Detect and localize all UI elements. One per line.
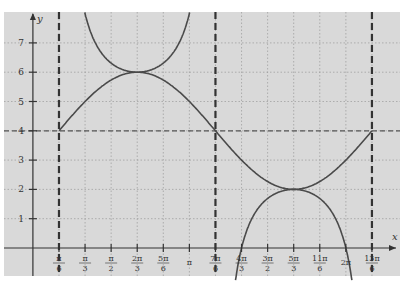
plot-background — [4, 12, 400, 276]
y-tick-4: 4 — [18, 126, 24, 136]
svg-text:π: π — [56, 254, 61, 263]
svg-text:6: 6 — [369, 264, 374, 273]
svg-text:3: 3 — [83, 264, 88, 273]
graph: π6π3π22π35π6π7π64π33π25π311π62π13π6 1234… — [0, 0, 403, 286]
svg-text:6: 6 — [161, 264, 166, 273]
y-tick-2: 2 — [18, 184, 24, 194]
svg-text:2: 2 — [265, 264, 270, 273]
svg-text:2: 2 — [109, 264, 114, 273]
svg-text:11π: 11π — [312, 254, 327, 263]
svg-text:2π: 2π — [341, 258, 351, 267]
svg-text:π: π — [82, 254, 87, 263]
y-tick-1: 1 — [18, 214, 24, 224]
svg-text:4π: 4π — [236, 254, 246, 263]
svg-text:2π: 2π — [132, 254, 142, 263]
y-tick-6: 6 — [18, 67, 24, 77]
svg-text:6: 6 — [317, 264, 322, 273]
svg-text:13π: 13π — [364, 254, 379, 263]
x-tick-6: π — [187, 258, 192, 267]
x-axis-label: x — [392, 231, 398, 242]
svg-text:3π: 3π — [262, 254, 272, 263]
svg-text:5π: 5π — [158, 254, 168, 263]
y-tick-5: 5 — [18, 97, 24, 107]
x-tick-12: 2π — [341, 258, 351, 267]
svg-text:3: 3 — [291, 264, 296, 273]
svg-text:7π: 7π — [210, 254, 220, 263]
svg-text:6: 6 — [213, 264, 218, 273]
svg-text:3: 3 — [239, 264, 244, 273]
svg-text:6: 6 — [56, 264, 61, 273]
y-axis-label: y — [36, 13, 43, 24]
svg-text:5π: 5π — [289, 254, 299, 263]
svg-text:3: 3 — [135, 264, 140, 273]
svg-text:π: π — [187, 258, 192, 267]
y-tick-7: 7 — [18, 38, 24, 48]
y-tick-3: 3 — [18, 155, 24, 165]
svg-text:π: π — [109, 254, 114, 263]
